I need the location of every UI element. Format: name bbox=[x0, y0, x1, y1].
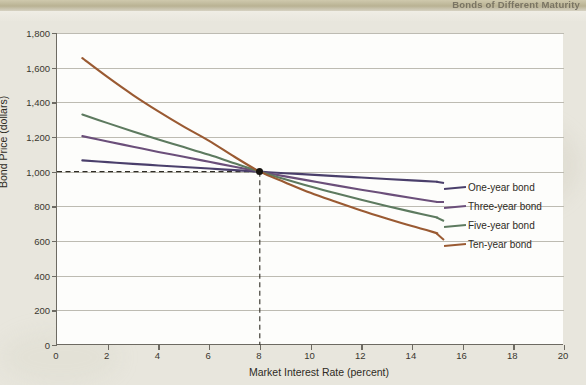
y-axis-tick-label: 400 bbox=[34, 270, 50, 281]
y-axis-tick-labels: 02004006008001,0001,2001,4001,6001,800 bbox=[14, 33, 50, 345]
x-axis-tick-label: 8 bbox=[256, 350, 261, 361]
x-axis-tick-label: 14 bbox=[406, 350, 417, 361]
legend-item-label: One-year bond bbox=[468, 182, 535, 193]
legend-item-three-year-bond: Three-year bond bbox=[444, 197, 584, 216]
x-axis-tick-label: 16 bbox=[456, 350, 467, 361]
x-axis-title: Market Interest Rate (percent) bbox=[0, 366, 586, 378]
legend: One-year bondThree-year bondFive-year bo… bbox=[444, 178, 584, 254]
figure-bond-price-vs-interest-rate: 02004006008001,0001,2001,4001,6001,800 0… bbox=[0, 0, 586, 385]
x-axis-tick-label: 4 bbox=[155, 350, 160, 361]
legend-item-label: Ten-year bond bbox=[468, 239, 532, 250]
legend-swatch-line bbox=[444, 241, 466, 249]
legend-item-one-year-bond: One-year bond bbox=[444, 178, 584, 197]
x-axis-tick-label: 10 bbox=[304, 350, 315, 361]
legend-item-ten-year-bond: Ten-year bond bbox=[444, 235, 584, 254]
x-axis-title-text: Market Interest Rate (percent) bbox=[249, 366, 389, 378]
y-axis-tick-label: 1,000 bbox=[26, 166, 50, 177]
legend-swatch-line bbox=[444, 203, 466, 211]
y-axis-tick-label: 1,400 bbox=[26, 97, 50, 108]
legend-swatch-line bbox=[444, 184, 466, 192]
x-axis-tick-label: 12 bbox=[355, 350, 366, 361]
x-axis-tick-label: 0 bbox=[53, 350, 58, 361]
x-axis-tick-label: 18 bbox=[507, 350, 518, 361]
y-axis-tick-label: 1,800 bbox=[26, 28, 50, 39]
legend-item-five-year-bond: Five-year bond bbox=[444, 216, 584, 235]
y-axis-tick-label: 1,200 bbox=[26, 132, 50, 143]
y-axis-tick bbox=[52, 345, 57, 346]
x-axis-tick-label: 20 bbox=[558, 350, 569, 361]
y-axis-tick-label: 200 bbox=[34, 305, 50, 316]
legend-item-label: Five-year bond bbox=[468, 220, 535, 231]
y-axis-tick-label: 0 bbox=[45, 340, 50, 351]
y-axis-tick-label: 600 bbox=[34, 236, 50, 247]
y-axis-tick-label: 1,600 bbox=[26, 62, 50, 73]
y-axis-tick-label: 800 bbox=[34, 201, 50, 212]
x-axis-tick-labels: 02468101214161820 bbox=[56, 350, 563, 364]
legend-item-label: Three-year bond bbox=[468, 201, 542, 212]
x-axis-tick-label: 2 bbox=[104, 350, 109, 361]
legend-swatch-line bbox=[444, 222, 466, 230]
x-axis-tick-label: 6 bbox=[205, 350, 210, 361]
y-axis-title: Bond Price (dollars) bbox=[0, 96, 9, 188]
